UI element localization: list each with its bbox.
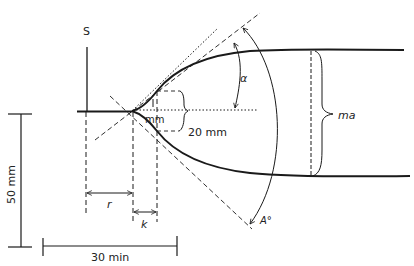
- thromboelastogram-diagram: S mm 20 mm r k ma α A° 50 mm 30 min: [0, 0, 414, 266]
- alpha-label: α: [240, 72, 248, 85]
- r-label: r: [107, 198, 113, 211]
- lower-trace: [132, 111, 410, 176]
- thirty-min-label: 30 min: [91, 251, 129, 264]
- ma-brace: [313, 51, 333, 176]
- mm-label: mm: [145, 114, 164, 125]
- twenty-mm-brace: [179, 91, 188, 131]
- tangent-line-a: [95, 13, 260, 140]
- twenty-mm-label: 20 mm: [188, 126, 227, 139]
- ma-label: ma: [338, 109, 356, 122]
- k-label: k: [141, 218, 148, 231]
- tangent-line-lower: [110, 96, 252, 229]
- alpha-tangent-dotted: [130, 28, 218, 113]
- a-degree-label: A°: [259, 215, 272, 226]
- s-label: S: [83, 25, 90, 38]
- twenty-mm-box: [157, 91, 180, 131]
- fifty-mm-label: 50 mm: [5, 165, 18, 204]
- a-degree-arc-arrow: [243, 28, 277, 224]
